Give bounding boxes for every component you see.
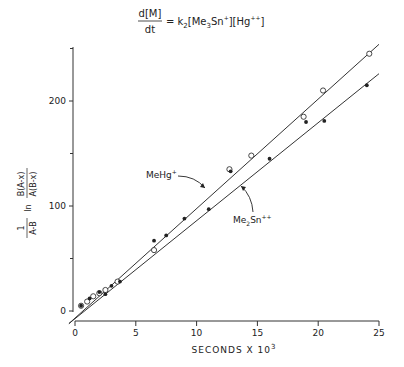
y-tick-label: 100 [49,201,66,211]
data-point-filled [88,297,92,301]
data-point-open [301,114,306,119]
chart: d[M] dt = k2[Me3Sn+][Hg++] 1 A-B ln B(A-… [0,0,404,367]
svg-text:ln: ln [24,204,33,211]
svg-text:MeHg+: MeHg+ [146,168,177,180]
x-tick-label: 0 [72,328,78,338]
data-point-open [249,153,254,158]
x-tick-label: 10 [191,328,203,338]
data-point-filled [229,169,233,173]
svg-text:Me2Sn++: Me2Sn++ [233,213,272,227]
annotation-me2sn: Me2Sn++ [233,186,272,227]
svg-text:A-B: A-B [29,221,38,234]
x-tick-label: 25 [373,328,384,338]
data-point-open [367,51,372,56]
y-tick-label: 0 [60,306,66,316]
data-point-filled [152,239,156,243]
data-point-filled [104,292,108,296]
x-axis-label: SECONDS X 103 [192,343,277,355]
y-ticks: 0100200 [49,49,73,317]
data-point-filled [268,157,272,161]
x-ticks: 0510152025 [72,321,385,338]
data-point-filled [365,83,369,87]
data-point-filled [118,280,122,284]
data-point-open [103,287,108,292]
x-tick-label: 20 [312,328,324,338]
title-lhs-numerator: d[M] [139,8,162,19]
svg-text:1: 1 [17,225,26,230]
x-tick-label: 5 [133,328,139,338]
data-point-open [151,248,156,253]
annotation-mehg: MeHg+ [146,168,205,188]
data-point-filled [110,284,114,288]
y-axis-label: 1 A-B ln B(A-x) A(B-x) [17,168,38,238]
svg-text:B(A-x): B(A-x) [17,172,26,197]
title-lhs-denominator: dt [145,24,155,35]
title-rhs: = k2[Me3Sn+][Hg++] [166,14,264,30]
data-point-filled [79,304,83,308]
data-point-open [320,88,325,93]
data-point-filled [164,234,168,238]
chart-title: d[M] dt = k2[Me3Sn+][Hg++] [138,8,264,35]
data-point-filled [304,120,308,124]
fit-line [69,74,379,324]
data-point-filled [97,290,101,294]
svg-text:A(B-x): A(B-x) [29,172,38,197]
y-tick-label: 200 [49,96,66,106]
data-point-filled [322,119,326,123]
data-point-filled [207,207,211,211]
x-tick-label: 15 [252,328,263,338]
data-point-filled [183,217,187,221]
